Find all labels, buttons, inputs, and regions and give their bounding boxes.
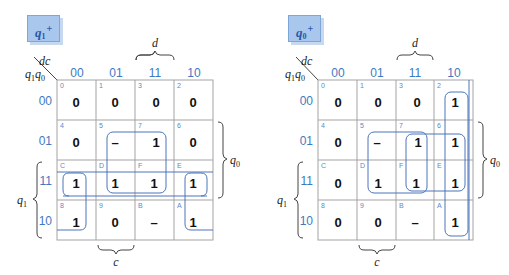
svg-text:–: – [411,215,418,230]
svg-text:1: 1 [451,215,458,230]
row-header: 00 [39,94,53,108]
svg-text:–: – [111,135,118,150]
svg-text:0: 0 [334,215,341,230]
col-header: 01 [370,66,384,80]
kmap-q1-next: q1+ dc q1q0 00 01 11 10 00 01 11 10 0 1 … [0,0,254,275]
corner-label-top: dc [301,54,313,68]
brace-label-c: c [113,255,119,269]
svg-text:7: 7 [399,122,403,129]
svg-text:D: D [99,162,104,169]
svg-text:8: 8 [60,202,64,209]
svg-text:F: F [138,162,142,169]
svg-text:0: 0 [72,135,79,150]
svg-text:1: 1 [152,135,159,150]
svg-text:0: 0 [60,82,64,89]
svg-text:0: 0 [374,215,381,230]
row-header: 10 [39,214,53,228]
svg-text:A: A [437,202,442,209]
svg-text:0: 0 [321,82,325,89]
row-header: 11 [40,174,53,188]
corner-label-top: dc [39,54,51,68]
col-header: 00 [70,66,84,80]
svg-text:0: 0 [334,135,341,150]
row-header: 11 [301,174,314,188]
svg-text:1: 1 [451,135,458,150]
svg-text:–: – [150,215,157,230]
svg-text:4: 4 [60,122,64,129]
col-header: 01 [109,66,123,80]
row-header: 00 [300,94,314,108]
svg-text:0: 0 [72,95,79,110]
svg-text:6: 6 [437,122,441,129]
brace-label-q0: q0 [230,153,240,169]
brace-label-q1: q1 [17,193,27,209]
svg-text:A: A [177,202,182,209]
svg-text:4: 4 [321,122,325,129]
row-header: 01 [300,134,314,148]
svg-text:1: 1 [451,95,458,110]
col-header: 11 [409,66,422,80]
svg-text:1: 1 [111,176,118,191]
col-header: 11 [149,66,162,80]
svg-text:B: B [399,202,404,209]
svg-text:8: 8 [321,202,325,209]
brace-d [397,51,433,60]
svg-text:C: C [321,162,326,169]
svg-text:0: 0 [374,95,381,110]
brace-label-q1: q1 [277,193,287,209]
svg-text:1: 1 [451,176,458,191]
svg-text:0: 0 [413,95,420,110]
svg-text:1: 1 [150,176,157,191]
col-header: 10 [447,66,461,80]
svg-text:1: 1 [374,176,381,191]
kmap-svg: dc q1q0 00 01 11 10 00 01 11 10 0 1 3 2 … [255,0,509,275]
svg-text:D: D [360,162,365,169]
corner-label-bottom: q1q0 [25,67,45,83]
brace-c [98,245,134,254]
svg-text:0: 0 [111,215,118,230]
brace-label-d: d [412,36,419,50]
brace-label-c: c [374,255,380,269]
brace-c [359,245,395,254]
svg-text:3: 3 [138,82,142,89]
brace-label-d: d [152,36,159,50]
svg-text:1: 1 [72,176,79,191]
svg-text:9: 9 [360,202,364,209]
svg-text:1: 1 [414,135,421,150]
corner-label-bottom: q1q0 [285,67,305,83]
svg-text:6: 6 [177,122,181,129]
svg-text:2: 2 [437,82,441,89]
svg-text:2: 2 [177,82,181,89]
svg-text:B: B [138,202,143,209]
svg-text:0: 0 [334,95,341,110]
row-header: 01 [39,134,53,148]
svg-text:0: 0 [111,95,118,110]
col-header: 00 [331,66,345,80]
brace-q0 [478,122,487,198]
svg-text:1: 1 [189,176,196,191]
svg-text:0: 0 [189,95,196,110]
svg-text:1: 1 [412,176,419,191]
svg-text:9: 9 [99,202,103,209]
svg-text:0: 0 [334,176,341,191]
kmap-svg: dc q1q0 00 01 11 10 00 01 11 10 0 1 3 2 … [0,0,254,275]
svg-text:E: E [437,162,442,169]
svg-text:5: 5 [99,122,103,129]
svg-text:1: 1 [99,82,103,89]
kmap-q0-next: q0+ dc q1q0 00 01 11 10 00 01 11 10 0 1 … [255,0,509,275]
svg-text:0: 0 [189,135,196,150]
svg-text:1: 1 [72,215,79,230]
svg-text:E: E [177,162,182,169]
svg-text:–: – [373,135,380,150]
row-header: 10 [300,214,314,228]
svg-text:C: C [60,162,65,169]
svg-text:0: 0 [152,95,159,110]
svg-text:5: 5 [360,122,364,129]
col-header: 10 [187,66,201,80]
svg-text:F: F [399,162,403,169]
svg-text:3: 3 [399,82,403,89]
svg-text:1: 1 [189,215,196,230]
svg-text:7: 7 [138,122,142,129]
brace-q0 [218,122,227,198]
brace-label-q0: q0 [490,153,500,169]
